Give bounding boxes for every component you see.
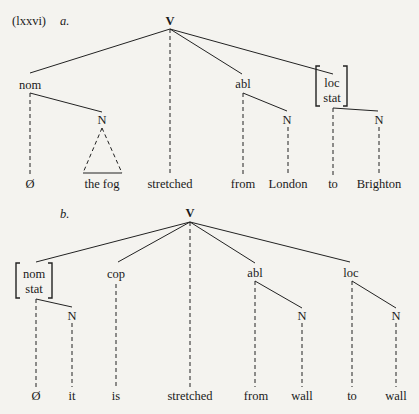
node-abl: abl [235, 77, 251, 91]
node-abl-n: N [297, 309, 306, 323]
edge-v-abl [170, 29, 242, 74]
edge-v-loc [190, 222, 350, 262]
leaf: Ø [31, 389, 40, 403]
edge-v-cop [118, 222, 190, 262]
node-loc: loc [324, 76, 340, 90]
bracket-right [48, 263, 52, 298]
edge-abl-n [243, 93, 287, 111]
leaf: is [112, 389, 120, 403]
leaf: stretched [167, 389, 213, 403]
tree-b-label: b. [60, 207, 69, 221]
edge-loc-n [352, 281, 396, 308]
leaf: wall [385, 389, 407, 403]
node-loc-n: N [391, 309, 400, 323]
tree-a-root-v: V [165, 14, 174, 28]
tree-a-label: a. [60, 14, 69, 28]
node-nom-n: N [97, 113, 106, 127]
edge-v-nom [30, 29, 170, 73]
leaf: from [231, 177, 256, 191]
triangle-left [83, 128, 102, 173]
edge-nom-n [30, 93, 102, 112]
edge-abl-n [255, 281, 302, 308]
node-abl-n: N [282, 113, 291, 127]
bracket-right [343, 66, 347, 106]
leaf: wall [291, 389, 313, 403]
node-loc: loc [343, 266, 359, 280]
triangle-right [102, 128, 122, 173]
leaf: from [244, 389, 269, 403]
node-nom-n: N [67, 309, 76, 323]
leaf: the fog [84, 177, 120, 191]
bracket-left [16, 263, 20, 298]
node-nom: nom [23, 267, 46, 281]
edge-loc-n [333, 108, 378, 111]
leaf: London [269, 177, 309, 191]
leaf: to [328, 177, 338, 191]
tree-b-root-v: V [185, 206, 194, 220]
node-stat: stat [323, 91, 341, 105]
edge-v-loc [170, 29, 333, 74]
leaf: Brighton [357, 177, 402, 191]
tree-b: b. V nom stat N cop abl N loc N Ø i [16, 206, 407, 403]
example-number: (lxxvi) [12, 14, 46, 28]
node-abl: abl [247, 266, 263, 280]
node-cop: cop [107, 267, 125, 281]
dependency-tree-diagram: (lxxvi) a. V nom N abl N loc stat N Ø [0, 0, 419, 414]
edge-v-nom [36, 222, 190, 262]
node-stat: stat [25, 282, 43, 296]
edge-v-abl [190, 222, 255, 263]
edge-nom-n [36, 299, 72, 307]
bracket-left [316, 66, 320, 106]
node-nom: nom [19, 78, 42, 92]
leaf: stretched [147, 177, 193, 191]
leaf: Ø [25, 177, 34, 191]
node-loc-n: N [374, 113, 383, 127]
tree-a: (lxxvi) a. V nom N abl N loc stat N Ø [12, 14, 402, 191]
leaf: it [69, 389, 76, 403]
leaf: to [347, 389, 357, 403]
